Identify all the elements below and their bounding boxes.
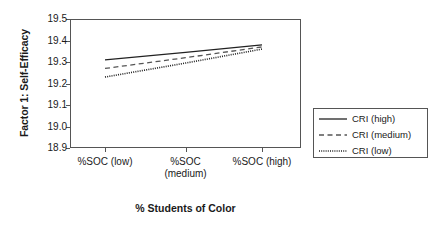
legend: CRI (high) CRI (medium) CRI (low) [313,108,428,158]
y-tick-label: 19.1 [27,100,67,110]
legend-line-dashed-icon [319,129,347,141]
x-tick-mark [262,148,263,152]
y-tick-label: 18.9 [27,143,67,153]
legend-label: CRI (high) [352,113,395,125]
interaction-plot-figure: Factor 1: Self-Efficacy 19.519.419.319.2… [0,0,433,231]
x-tick-label: %SOC (high) [214,156,310,168]
y-tick-label: 19.3 [27,57,67,67]
x-tick-mark [186,148,187,152]
legend-label: CRI (medium) [352,129,411,141]
legend-item-cri-medium: CRI (medium) [314,127,429,143]
legend-item-cri-low: CRI (low) [314,143,429,159]
y-tick-label: 19.4 [27,36,67,46]
x-tick-mark [105,148,106,152]
legend-line-solid-icon [319,113,347,125]
y-tick-label: 19.0 [27,122,67,132]
plot-area [70,19,301,148]
x-axis-title: % Students of Color [70,202,301,214]
legend-item-cri-high: CRI (high) [314,111,429,127]
y-tick-label: 19.2 [27,79,67,89]
legend-line-dotted-icon [319,145,347,157]
y-tick-label: 19.5 [27,14,67,24]
legend-label: CRI (low) [352,145,392,157]
